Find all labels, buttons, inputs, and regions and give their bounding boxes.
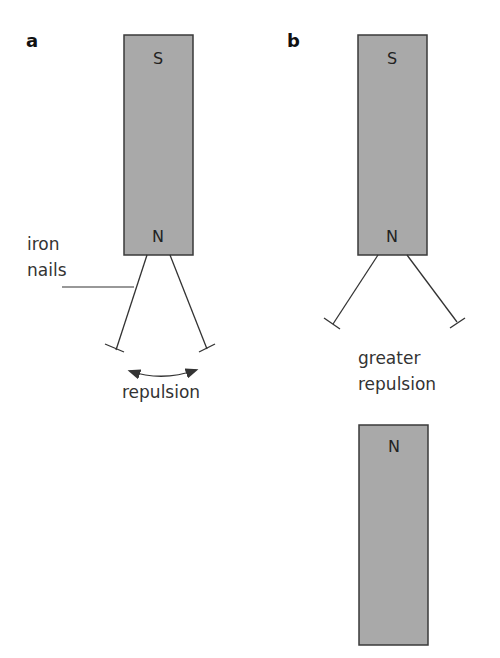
magnet-a	[124, 35, 193, 255]
iron-nails-label-line2: nails	[27, 262, 67, 279]
pole-label-n-b: N	[386, 227, 398, 246]
greater-repulsion-label-line1: greater	[358, 350, 420, 367]
pole-label-s-b: S	[387, 49, 397, 68]
iron-nails-label-line1: iron	[27, 236, 60, 253]
pole-label-n-a: N	[152, 227, 164, 246]
greater-repulsion-label-line2: repulsion	[358, 376, 436, 393]
panel-label-a: a	[26, 30, 38, 51]
magnet-b-upper	[358, 35, 427, 255]
repulsion-label: repulsion	[122, 384, 200, 401]
diagram-canvas	[0, 0, 500, 658]
iron-nails-b	[324, 255, 465, 329]
iron-nails-a	[105, 255, 215, 352]
magnet-b-lower	[359, 425, 428, 645]
pole-label-s-a: S	[153, 49, 163, 68]
panel-label-b: b	[287, 30, 300, 51]
repulsion-arrow	[130, 370, 196, 376]
pole-label-n-b-lower: N	[388, 437, 400, 456]
